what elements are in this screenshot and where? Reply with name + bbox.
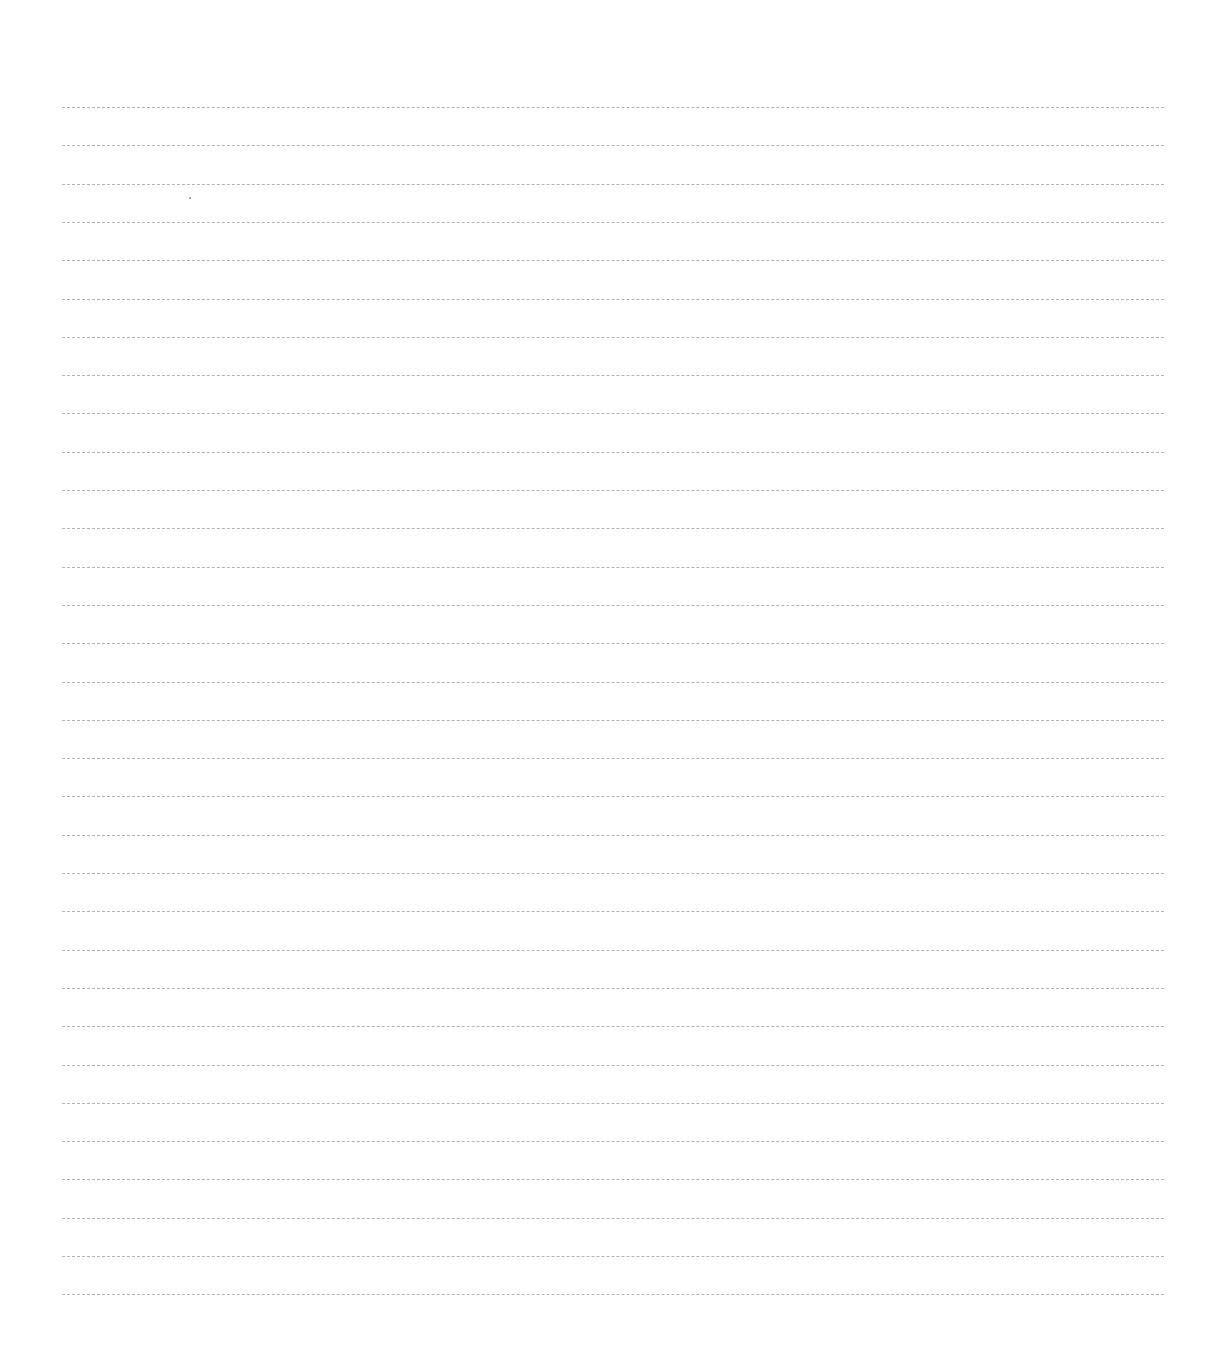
ruled-line <box>62 413 1164 414</box>
ruled-line <box>62 643 1164 644</box>
ruled-line <box>62 950 1164 951</box>
ruled-line <box>62 145 1164 146</box>
ruled-line <box>62 337 1164 338</box>
ruled-line <box>62 528 1164 529</box>
ruled-line <box>62 299 1164 300</box>
stray-mark <box>189 197 191 199</box>
ruled-line <box>62 184 1164 185</box>
ruled-line <box>62 260 1164 261</box>
ruled-line <box>62 911 1164 912</box>
ruled-line <box>62 682 1164 683</box>
ruled-line <box>62 796 1164 797</box>
ruled-line <box>62 605 1164 606</box>
ruled-line <box>62 375 1164 376</box>
ruled-line <box>62 1294 1164 1295</box>
ruled-line <box>62 1256 1164 1257</box>
ruled-line <box>62 1218 1164 1219</box>
ruled-line <box>62 835 1164 836</box>
ruled-line <box>62 222 1164 223</box>
ruled-line <box>62 1026 1164 1027</box>
ruled-line <box>62 988 1164 989</box>
lined-paper-page <box>0 0 1210 1355</box>
ruled-line <box>62 1103 1164 1104</box>
ruled-line <box>62 1141 1164 1142</box>
ruled-line <box>62 490 1164 491</box>
ruled-line <box>62 1065 1164 1066</box>
ruled-line <box>62 720 1164 721</box>
ruled-line <box>62 873 1164 874</box>
ruled-line <box>62 567 1164 568</box>
ruled-line <box>62 107 1164 108</box>
ruled-line <box>62 452 1164 453</box>
ruled-line <box>62 758 1164 759</box>
ruled-line <box>62 1179 1164 1180</box>
